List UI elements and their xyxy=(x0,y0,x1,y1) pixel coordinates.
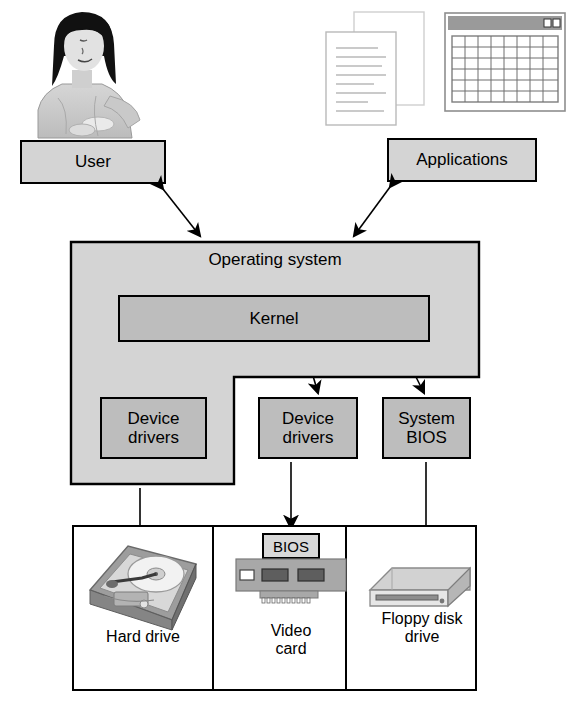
node-device-drivers-mid[interactable]: Device drivers xyxy=(258,397,358,459)
bios-chip-label-box: BIOS xyxy=(262,533,320,559)
hardware-divider-2 xyxy=(345,527,347,689)
user-photo-icon xyxy=(24,6,144,138)
node-device-drivers-left[interactable]: Device drivers xyxy=(100,397,207,459)
arrow-user-os xyxy=(163,189,200,236)
node-device-drivers-mid-label: Device drivers xyxy=(282,409,334,447)
node-system-bios[interactable]: System BIOS xyxy=(382,397,471,459)
arrow-applications-os xyxy=(354,187,390,236)
node-operating-system-label: Operating system xyxy=(70,250,480,270)
node-applications[interactable]: Applications xyxy=(387,138,537,182)
node-applications-label: Applications xyxy=(416,150,508,169)
hardware-label-floppy-drive: Floppy disk drive xyxy=(348,610,496,647)
node-user-label: User xyxy=(75,152,111,171)
hard-drive-icon xyxy=(84,534,202,630)
node-kernel[interactable]: Kernel xyxy=(118,295,430,342)
spreadsheet-window-icon xyxy=(444,12,566,112)
node-user[interactable]: User xyxy=(20,140,166,184)
hardware-label-video-card: Video card xyxy=(216,622,366,659)
bios-chip-label: BIOS xyxy=(273,538,309,555)
hardware-divider-1 xyxy=(212,527,214,689)
node-system-bios-label: System BIOS xyxy=(398,409,455,447)
video-card-icon xyxy=(232,557,350,607)
diagram-canvas: User Applications xyxy=(0,0,579,710)
node-device-drivers-left-label: Device drivers xyxy=(128,409,180,447)
documents-icon xyxy=(322,10,432,130)
node-kernel-label: Kernel xyxy=(249,309,298,328)
hardware-label-hard-drive: Hard drive xyxy=(76,628,210,646)
